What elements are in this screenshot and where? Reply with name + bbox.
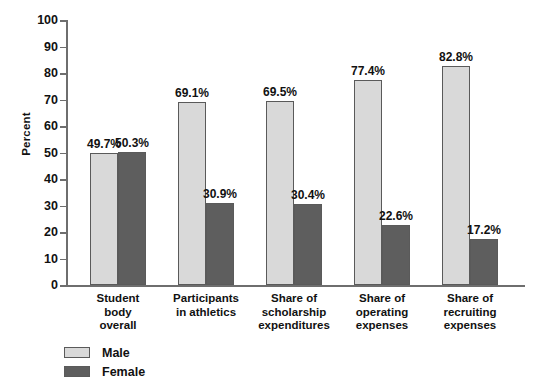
- category-label-line: body: [73, 306, 163, 320]
- category-label-4: Share ofrecruitingexpenses: [425, 292, 515, 333]
- chart-legend: Male Female: [64, 343, 145, 381]
- category-label-line: recruiting: [425, 306, 515, 320]
- y-tick-60: [60, 126, 66, 128]
- legend-swatch-female: [64, 366, 90, 377]
- category-label-line: overall: [73, 319, 163, 333]
- y-tick-label-50: 50: [24, 147, 58, 160]
- y-tick-40: [60, 179, 66, 181]
- bar-female-4: [470, 239, 498, 285]
- y-tick-label-100: 100: [24, 14, 58, 27]
- bar-female-3: [382, 225, 410, 285]
- category-label-line: Share of: [337, 292, 427, 306]
- y-tick-90: [60, 47, 66, 49]
- bar-value-label-male-3: 77.4%: [344, 65, 392, 77]
- bar-female-1: [206, 203, 234, 285]
- bar-value-label-female-4: 17.2%: [460, 224, 508, 236]
- bar-female-2: [294, 204, 322, 285]
- category-label-line: expenses: [425, 319, 515, 333]
- bar-male-0: [90, 153, 118, 285]
- y-tick-label-20: 20: [24, 226, 58, 239]
- y-tick-label-10: 10: [24, 253, 58, 266]
- legend-item-female: Female: [64, 362, 145, 381]
- bar-chart: Percent 1009080706050403020100 49.7%50.3…: [0, 0, 546, 385]
- category-label-line: in athletics: [161, 306, 251, 320]
- bar-male-3: [354, 80, 382, 285]
- y-tick-label-0: 0: [24, 279, 58, 292]
- category-label-line: Student: [73, 292, 163, 306]
- y-tick-label-40: 40: [24, 173, 58, 186]
- bar-value-label-male-2: 69.5%: [256, 86, 304, 98]
- category-label-line: Share of: [249, 292, 339, 306]
- category-label-1: Participantsin athletics: [161, 292, 251, 319]
- y-axis-line: [66, 20, 68, 285]
- y-tick-70: [60, 100, 66, 102]
- category-label-line: scholarship: [249, 306, 339, 320]
- y-tick-label-70: 70: [24, 94, 58, 107]
- plot-area: 1009080706050403020100 49.7%50.3%69.1%30…: [66, 20, 525, 285]
- bar-value-label-female-0: 50.3%: [108, 137, 156, 149]
- y-tick-label-90: 90: [24, 41, 58, 54]
- category-label-3: Share ofoperatingexpenses: [337, 292, 427, 333]
- bar-value-label-female-1: 30.9%: [196, 188, 244, 200]
- y-tick-30: [60, 206, 66, 208]
- legend-swatch-male: [64, 347, 90, 358]
- legend-label-male: Male: [102, 346, 130, 360]
- legend-label-female: Female: [102, 365, 145, 379]
- bar-value-label-male-4: 82.8%: [432, 51, 480, 63]
- category-label-line: Share of: [425, 292, 515, 306]
- bar-value-label-female-2: 30.4%: [284, 189, 332, 201]
- category-label-0: Studentbodyoverall: [73, 292, 163, 333]
- category-label-line: expenditures: [249, 319, 339, 333]
- legend-item-male: Male: [64, 343, 145, 362]
- y-tick-label-30: 30: [24, 200, 58, 213]
- bar-female-0: [118, 152, 146, 285]
- y-tick-label-80: 80: [24, 67, 58, 80]
- y-tick-label-60: 60: [24, 120, 58, 133]
- category-label-line: expenses: [337, 319, 427, 333]
- bar-value-label-female-3: 22.6%: [372, 210, 420, 222]
- y-tick-20: [60, 232, 66, 234]
- y-tick-50: [60, 153, 66, 155]
- category-label-2: Share ofscholarshipexpenditures: [249, 292, 339, 333]
- y-tick-100: [60, 20, 66, 22]
- bar-value-label-male-1: 69.1%: [168, 87, 216, 99]
- category-label-line: Participants: [161, 292, 251, 306]
- y-tick-10: [60, 259, 66, 261]
- bar-male-4: [442, 66, 470, 285]
- x-axis-line: [66, 285, 525, 287]
- category-label-line: operating: [337, 306, 427, 320]
- y-tick-0: [60, 285, 66, 287]
- y-tick-80: [60, 73, 66, 75]
